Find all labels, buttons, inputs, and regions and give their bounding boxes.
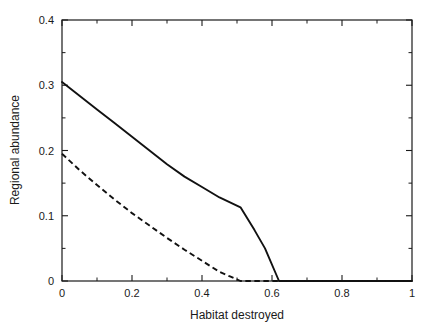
x-tick-label: 0 [59, 287, 65, 299]
x-axis-minor-ticks [97, 20, 377, 281]
y-tick-label: 0.1 [39, 210, 54, 222]
plot-frame [62, 20, 412, 281]
y-tick-label: 0 [48, 275, 54, 287]
series-line-solid [62, 82, 412, 281]
y-tick-label: 0.4 [39, 14, 54, 26]
line-chart-svg: 00.20.40.60.81 00.10.20.30.4 Habitat des… [0, 0, 434, 330]
chart-figure: 00.20.40.60.81 00.10.20.30.4 Habitat des… [0, 0, 434, 330]
series-line-dashed [62, 154, 412, 281]
y-axis-minor-ticks [62, 53, 412, 249]
x-axis-tick-labels: 00.20.40.60.81 [59, 287, 415, 299]
x-tick-label: 0.8 [334, 287, 349, 299]
y-axis-major-ticks [62, 20, 412, 281]
y-tick-label: 0.3 [39, 79, 54, 91]
y-axis-label: Regional abundance [8, 95, 22, 205]
x-tick-label: 1 [409, 287, 415, 299]
x-tick-label: 0.4 [194, 287, 209, 299]
x-tick-label: 0.2 [124, 287, 139, 299]
x-axis-label: Habitat destroyed [190, 308, 284, 322]
y-axis-tick-labels: 00.10.20.30.4 [39, 14, 54, 287]
x-axis-major-ticks [62, 20, 412, 281]
y-tick-label: 0.2 [39, 145, 54, 157]
x-tick-label: 0.6 [264, 287, 279, 299]
